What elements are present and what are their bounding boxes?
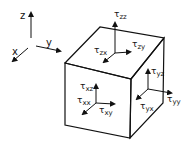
tau-xz-label: τxz (80, 81, 94, 93)
stress-cube-diagram: z y x τzz τzy τzx τxz τxx τxy τyz τyx τy… (0, 0, 189, 147)
z-axis-label: z (20, 10, 25, 21)
tau-xy-arrow (96, 103, 114, 104)
cube-front-face (65, 63, 131, 138)
top-face-stresses: τzz τzy τzx (94, 9, 145, 62)
tau-yy-arrow (148, 89, 171, 93)
y-axis-label: y (46, 37, 52, 48)
front-face-stresses: τxz τxx τxy (77, 81, 114, 117)
side-face-stresses: τyz τyx τyy (137, 66, 181, 113)
tau-yx-arrow (137, 89, 148, 99)
tau-zy-arrow (115, 52, 130, 53)
tau-zz-label: τzz (114, 9, 127, 21)
tau-xx-label: τxx (77, 95, 91, 107)
tau-zx-label: τzx (94, 45, 107, 57)
tau-zy-label: τzy (132, 39, 145, 51)
tau-xy-label: τxy (99, 105, 113, 117)
x-axis-label: x (12, 46, 18, 57)
cube-side-face (130, 38, 164, 138)
coordinate-axes: z y x (12, 10, 60, 61)
tau-yy-label: τyy (167, 94, 181, 106)
tau-yz-label: τyz (151, 66, 165, 78)
tau-yx-label: τyx (140, 101, 154, 113)
